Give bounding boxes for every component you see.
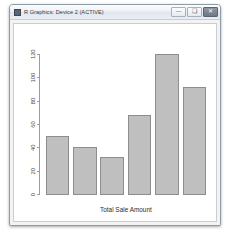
bar xyxy=(156,54,178,194)
minimize-button[interactable]: — xyxy=(171,7,186,17)
window-title: R Graphics: Device 2 (ACTIVE) xyxy=(24,9,170,16)
y-axis-tick-label: 120 xyxy=(30,49,36,59)
r-graphics-window[interactable]: R Graphics: Device 2 (ACTIVE) — ❑ ✕ 0204… xyxy=(9,4,221,226)
bar-chart: 020406080100120 Total Sale Amount xyxy=(14,24,216,221)
bar xyxy=(183,87,205,195)
minimize-icon: — xyxy=(172,8,185,16)
window-client-area: 020406080100120 Total Sale Amount xyxy=(10,20,220,225)
bar xyxy=(128,115,150,195)
y-axis-tick-label: 80 xyxy=(30,97,36,104)
desktop-backdrop: R Graphics: Device 2 (ACTIVE) — ❑ ✕ 0204… xyxy=(0,0,230,246)
bar xyxy=(101,157,123,194)
y-axis-tick-label: 100 xyxy=(30,72,36,82)
bar xyxy=(74,148,96,195)
bar xyxy=(46,136,68,195)
window-title-bar[interactable]: R Graphics: Device 2 (ACTIVE) — ❑ ✕ xyxy=(10,5,220,20)
y-axis-tick-label: 20 xyxy=(30,167,36,174)
y-axis-tick-label: 40 xyxy=(30,144,36,151)
y-axis-tick-label: 60 xyxy=(30,120,36,127)
y-axis: 020406080100120 xyxy=(30,49,39,197)
plot-canvas: 020406080100120 Total Sale Amount xyxy=(13,23,217,222)
y-axis-tick-label: 0 xyxy=(30,192,36,196)
bar-series xyxy=(46,54,205,194)
r-graphics-icon xyxy=(14,9,21,16)
x-axis-title: Total Sale Amount xyxy=(100,206,152,213)
maximize-button[interactable]: ❑ xyxy=(187,7,202,17)
close-icon: ✕ xyxy=(204,8,217,16)
maximize-icon: ❑ xyxy=(188,8,201,16)
close-button[interactable]: ✕ xyxy=(203,7,218,17)
